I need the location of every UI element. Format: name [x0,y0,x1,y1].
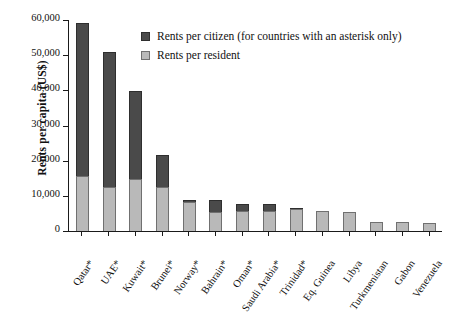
bar-group[interactable] [396,20,409,231]
bar-stack [343,212,356,231]
bar-segment-resident [370,222,383,231]
bar-segment-citizen [263,204,276,212]
bar-segment-resident [423,223,436,231]
x-axis-tick-mark [322,231,323,236]
y-axis-tick-mark [63,90,68,91]
bar-group[interactable] [183,20,196,231]
bar-group[interactable] [129,20,142,231]
bar-stack [129,91,142,231]
x-axis-tick-mark [162,231,163,236]
bar-group[interactable] [343,20,356,231]
bar-group[interactable] [76,20,89,231]
bar-segment-resident [290,209,303,231]
bar-segment-resident [316,211,329,231]
bar-group[interactable] [316,20,329,231]
bar-stack [396,222,409,231]
x-axis-tick-mark [268,231,269,236]
x-axis-tick-mark [402,231,403,236]
y-axis-tick-label: 30,000 [31,118,60,129]
bar-group[interactable] [263,20,276,231]
bar-stack [183,200,196,231]
bar-stack [290,208,303,231]
x-axis-line [68,231,442,232]
x-axis-tick-mark [242,231,243,236]
bar-segment-citizen [156,155,169,187]
x-axis-tick-mark [215,231,216,236]
bar-segment-citizen [76,23,89,176]
bar-group[interactable] [156,20,169,231]
y-axis-tick-label: 40,000 [31,82,60,93]
y-axis-tick-mark [63,126,68,127]
bar-group[interactable] [290,20,303,231]
bar-stack [316,211,329,231]
y-axis-tick-mark [63,20,68,21]
x-axis-tick-mark [188,231,189,236]
y-axis-tick-mark [63,231,68,232]
bar-segment-resident [103,187,116,231]
bar-segment-citizen [129,91,142,178]
bar-stack [423,223,436,231]
bar-group[interactable] [236,20,249,231]
x-axis-tick-mark [108,231,109,236]
y-axis-tick-label: 60,000 [31,12,60,23]
bar-segment-resident [183,202,196,231]
bar-stack [236,204,249,231]
x-axis-tick-mark [295,231,296,236]
y-axis-tick-mark [63,161,68,162]
x-axis-tick-mark [375,231,376,236]
bar-stack [156,155,169,231]
bar-segment-resident [396,222,409,231]
x-axis-tick-mark [81,231,82,236]
x-axis-tick-mark [349,231,350,236]
bar-group[interactable] [370,20,383,231]
bar-stack [370,222,383,231]
bar-stack [209,200,222,231]
bar-stack [103,52,116,231]
y-axis-tick-mark [63,55,68,56]
y-axis-tick-label: 10,000 [31,188,60,199]
plot-area: 010,00020,00030,00040,00050,00060,000 Qa… [68,20,442,231]
bar-segment-resident [209,212,222,231]
y-axis-tick-label: 20,000 [31,153,60,164]
y-axis-tick-label: 0 [55,223,60,234]
x-axis-tick-mark [135,231,136,236]
bar-group[interactable] [423,20,436,231]
bar-segment-citizen [103,52,116,187]
bar-segment-citizen [209,200,222,211]
bar-series-container [69,20,442,231]
bar-stack [263,204,276,231]
bar-segment-resident [129,179,142,231]
y-axis-tick-mark [63,196,68,197]
bar-group[interactable] [209,20,222,231]
y-axis-tick-label: 50,000 [31,47,60,58]
bar-segment-resident [343,212,356,231]
bar-segment-resident [156,187,169,231]
bar-stack [76,23,89,231]
bar-group[interactable] [103,20,116,231]
bar-segment-resident [236,211,249,231]
bar-segment-resident [263,211,276,231]
bar-segment-citizen [236,204,249,212]
bar-segment-resident [76,176,89,231]
x-axis-tick-mark [429,231,430,236]
